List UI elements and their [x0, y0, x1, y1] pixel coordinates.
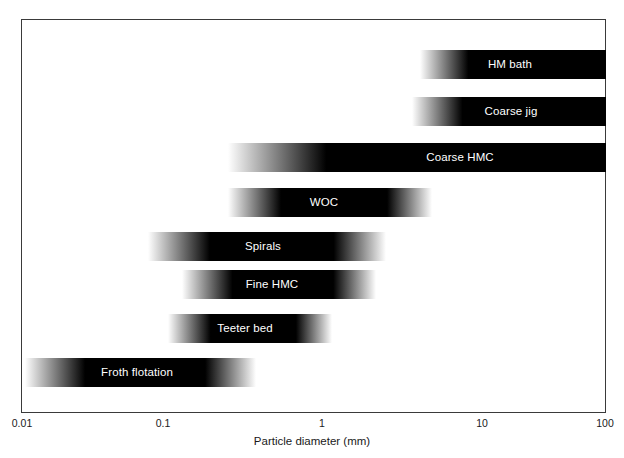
range-bar-label: Teeter bed [217, 314, 272, 343]
range-bar: Froth flotation [25, 358, 256, 387]
range-bar-label: Froth flotation [101, 358, 173, 387]
range-bar-label: Spirals [245, 232, 281, 261]
range-bar: WOC [228, 188, 432, 217]
range-bar-label: WOC [310, 188, 338, 217]
x-tick-label: 0.1 [156, 417, 171, 429]
x-axis-title: Particle diameter (mm) [0, 435, 624, 447]
range-bar: Teeter bed [168, 314, 332, 343]
plot-area: HM bathCoarse jigCoarse HMCWOCSpiralsFin… [21, 19, 606, 413]
x-tick-label: 1 [319, 417, 325, 429]
x-tick-label: 100 [596, 417, 614, 429]
range-bar-label: Fine HMC [246, 270, 299, 299]
chart-figure: HM bathCoarse jigCoarse HMCWOCSpiralsFin… [0, 0, 624, 458]
range-bar-label: Coarse jig [485, 97, 538, 126]
range-bar: Spirals [148, 232, 386, 261]
x-tick-label: 0.01 [12, 417, 32, 429]
range-bar-label: Coarse HMC [426, 143, 493, 172]
range-bar: Coarse jig [412, 97, 606, 126]
range-bar: Fine HMC [182, 270, 376, 299]
x-tick-label: 10 [476, 417, 488, 429]
range-bar: Coarse HMC [228, 143, 606, 172]
range-bar-label: HM bath [488, 50, 532, 79]
range-bar: HM bath [420, 50, 606, 79]
